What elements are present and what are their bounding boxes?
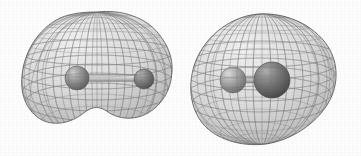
molecule-panel-right (180, 0, 361, 156)
figure-stage (0, 0, 361, 156)
molecule-panel-left (0, 0, 181, 156)
molecular-figure (0, 0, 361, 156)
left-molecule-svg (0, 0, 181, 156)
right-molecule-svg (180, 0, 361, 156)
atom-sphere-large (65, 66, 89, 90)
